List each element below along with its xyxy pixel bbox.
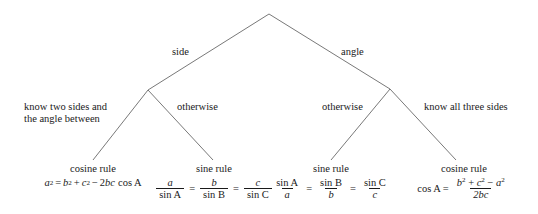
edge-root-to-side bbox=[148, 14, 269, 90]
fraction-numerator: a bbox=[165, 177, 176, 188]
fraction-a-over-sin-a: a sin A bbox=[156, 177, 184, 200]
fraction-numerator: b bbox=[208, 177, 219, 188]
formula-cos-a: cos A bbox=[118, 177, 142, 189]
fraction-c-over-sin-c: c sin C bbox=[244, 177, 272, 200]
numerator-exp-a: 2 bbox=[501, 176, 505, 184]
formula-term-a: a bbox=[44, 177, 49, 189]
fraction-numerator: b2 + c2 − a2 bbox=[454, 177, 508, 188]
edge-label-angle: angle bbox=[341, 46, 364, 58]
numerator-plus: + bbox=[468, 177, 474, 188]
fraction-denominator: b bbox=[325, 188, 336, 200]
fraction-sin-a-over-a: sin A a bbox=[273, 177, 301, 200]
leaf-cosine-rule-side-title: cosine rule bbox=[8, 163, 178, 175]
fraction-numerator: sin A bbox=[273, 177, 301, 188]
fraction-denominator: sin A bbox=[156, 188, 184, 200]
edge-label-side: side bbox=[172, 46, 189, 58]
diagram-canvas: side angle know two sides and the angle … bbox=[0, 0, 538, 214]
formula-eq: = bbox=[55, 177, 61, 189]
fraction-numerator: sin C bbox=[361, 177, 389, 188]
formula-eq: = bbox=[443, 183, 449, 195]
edge-root-to-angle bbox=[269, 14, 390, 89]
leaf-sine-rule-side-title: sine rule bbox=[158, 163, 270, 175]
condition-all-three-sides: know all three sides bbox=[424, 101, 508, 113]
fraction-sin-b-over-b: sin B b bbox=[317, 177, 345, 200]
formula-eq-1: = bbox=[189, 183, 195, 195]
fraction-cosine-rearranged: b2 + c2 − a2 2bc bbox=[454, 177, 508, 200]
leaf-cosine-rule-angle-formula: cos A = b2 + c2 − a2 2bc bbox=[396, 177, 532, 200]
fraction-denominator: 2bc bbox=[470, 188, 491, 200]
formula-eq-2: = bbox=[350, 183, 356, 195]
formula-eq-1: = bbox=[306, 183, 312, 195]
fraction-numerator: c bbox=[252, 177, 263, 188]
edge-angle-to-cosine bbox=[390, 89, 456, 160]
numerator-minus: − bbox=[487, 177, 493, 188]
fraction-denominator: sin C bbox=[244, 188, 272, 200]
leaf-cosine-rule-angle: cosine rule cos A = b2 + c2 − a2 2bc bbox=[396, 163, 532, 200]
formula-cos-a: cos A bbox=[417, 183, 441, 195]
condition-two-sides-angle: know two sides and the angle between bbox=[24, 101, 136, 124]
formula-term-bc: bc bbox=[105, 177, 115, 189]
numerator-exp-c: 2 bbox=[481, 176, 485, 184]
leaf-sine-rule-angle-title: sine rule bbox=[275, 163, 387, 175]
leaf-cosine-rule-angle-title: cosine rule bbox=[396, 163, 532, 175]
fraction-denominator: sin B bbox=[200, 188, 228, 200]
condition-otherwise-left: otherwise bbox=[177, 101, 218, 113]
formula-minus: − bbox=[92, 177, 98, 189]
fraction-numerator: sin B bbox=[317, 177, 345, 188]
leaf-sine-rule-angle-formula: sin A a = sin B b = sin C c bbox=[275, 177, 387, 200]
leaf-cosine-rule-side-formula: a2 = b2 + c2 − 2bc cos A bbox=[8, 177, 178, 189]
leaf-sine-rule-side-formula: a sin A = b sin B = c sin C bbox=[158, 177, 270, 200]
fraction-sin-c-over-c: sin C c bbox=[361, 177, 389, 200]
fraction-denominator: a bbox=[282, 188, 293, 200]
edge-angle-to-sine bbox=[331, 89, 390, 160]
leaf-cosine-rule-side: cosine rule a2 = b2 + c2 − 2bc cos A bbox=[8, 163, 178, 189]
fraction-b-over-sin-b: b sin B bbox=[200, 177, 228, 200]
leaf-sine-rule-side: sine rule a sin A = b sin B = c sin C bbox=[158, 163, 270, 200]
formula-eq-2: = bbox=[233, 183, 239, 195]
condition-two-sides-angle-line1: know two sides and bbox=[24, 101, 136, 113]
condition-two-sides-angle-line2: the angle between bbox=[24, 113, 136, 125]
formula-plus: + bbox=[74, 177, 80, 189]
numerator-exp-b: 2 bbox=[462, 176, 466, 184]
leaf-sine-rule-angle: sine rule sin A a = sin B b = sin C c bbox=[275, 163, 387, 200]
fraction-denominator: c bbox=[369, 188, 380, 200]
condition-otherwise-right: otherwise bbox=[322, 101, 363, 113]
